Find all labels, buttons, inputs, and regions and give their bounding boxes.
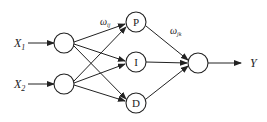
- input-node-2: [54, 74, 74, 94]
- label-y: Y: [250, 56, 258, 70]
- pid-neural-network-diagram: P I D X1 X2 ωij ωjk Y: [0, 0, 267, 122]
- output-node: [188, 53, 208, 73]
- label-d: D: [132, 97, 140, 109]
- label-p: P: [133, 16, 139, 28]
- label-x1: X1: [13, 36, 25, 52]
- input-node-1: [54, 33, 74, 53]
- label-i: I: [134, 56, 138, 68]
- label-x2: X2: [13, 77, 25, 93]
- input-hidden-edges: [74, 24, 126, 101]
- hidden-output-edges: [146, 26, 188, 99]
- label-weight-jk: ωjk: [170, 25, 182, 37]
- label-weight-ij: ωij: [100, 16, 111, 28]
